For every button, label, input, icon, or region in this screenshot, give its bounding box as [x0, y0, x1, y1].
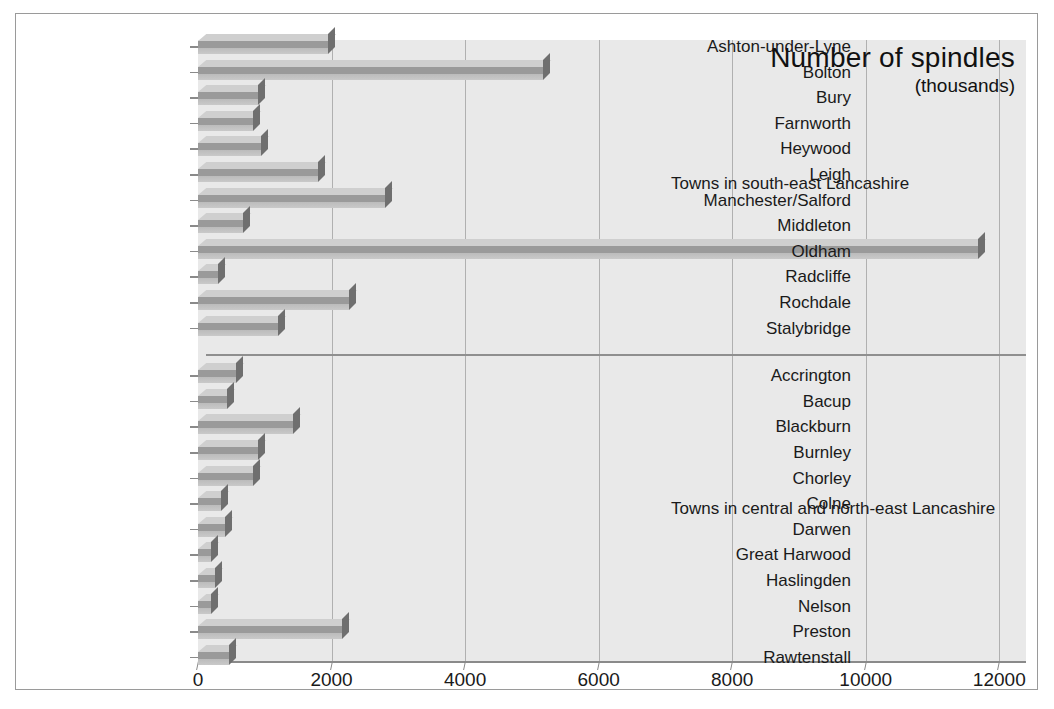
x-tick-label: 6000 — [578, 669, 620, 691]
group-divider — [206, 354, 1026, 356]
x-tick-label: 4000 — [444, 669, 486, 691]
category-label: Middleton — [777, 216, 851, 236]
category-label: Rochdale — [779, 293, 851, 313]
bar — [198, 246, 978, 259]
y-tick — [190, 529, 198, 531]
category-label: Darwen — [792, 520, 851, 540]
bar — [198, 195, 385, 208]
bar — [198, 169, 318, 182]
bar — [198, 323, 278, 336]
y-tick — [190, 225, 198, 227]
bar-top-face — [198, 85, 266, 92]
category-label: Burnley — [793, 443, 851, 463]
bar — [198, 370, 236, 383]
category-label: Bacup — [803, 392, 851, 412]
annotation-south-east: Towns in south-east Lancashire — [671, 174, 909, 194]
category-label: Preston — [792, 622, 851, 642]
bar — [198, 92, 258, 105]
category-label: Radcliffe — [785, 267, 851, 287]
bar — [198, 601, 211, 614]
y-tick — [190, 97, 198, 99]
bar-top-face — [198, 239, 986, 246]
bar — [198, 626, 342, 639]
bar — [198, 549, 211, 562]
y-tick — [190, 554, 198, 556]
bar-top-face — [198, 136, 270, 143]
bar — [198, 421, 293, 434]
x-tick-label: 12000 — [973, 669, 1026, 691]
bar — [198, 575, 215, 588]
bar — [198, 652, 229, 665]
y-tick — [190, 580, 198, 582]
chart-subtitle: (thousands) — [770, 75, 1015, 97]
y-tick — [190, 401, 198, 403]
y-tick — [190, 631, 198, 633]
category-label: Farnworth — [774, 114, 851, 134]
x-axis-line — [198, 661, 1026, 663]
y-tick — [190, 302, 198, 304]
category-label: Oldham — [791, 242, 851, 262]
y-tick — [190, 328, 198, 330]
bar — [198, 473, 253, 486]
chart-frame: 020004000600080001000012000 Ashton-under… — [15, 13, 1038, 690]
chart-title-block: Number of spindles (thousands) — [770, 42, 1015, 97]
y-tick — [190, 174, 198, 176]
bar-top-face — [198, 290, 357, 297]
bar — [198, 524, 225, 537]
y-tick — [190, 123, 198, 125]
y-tick — [190, 478, 198, 480]
bar — [198, 297, 349, 310]
y-tick — [190, 72, 198, 74]
bar — [198, 41, 328, 54]
y-tick — [190, 276, 198, 278]
y-tick — [190, 503, 198, 505]
category-label: Haslingden — [766, 571, 851, 591]
bar — [198, 498, 221, 511]
gridline — [732, 40, 733, 661]
gridline — [332, 40, 333, 661]
y-tick — [190, 200, 198, 202]
y-tick — [190, 46, 198, 48]
bar-top-face — [198, 34, 337, 41]
bar-top-face — [198, 162, 327, 169]
y-tick — [190, 251, 198, 253]
category-label: Chorley — [792, 469, 851, 489]
category-label: Accrington — [771, 366, 851, 386]
y-tick — [190, 452, 198, 454]
bar — [198, 396, 227, 409]
gridline — [465, 40, 466, 661]
bar — [198, 447, 258, 460]
category-label: Blackburn — [775, 417, 851, 437]
x-tick-label: 10000 — [839, 669, 892, 691]
gridline — [866, 40, 867, 661]
category-label: Stalybridge — [766, 319, 851, 339]
category-label: Nelson — [798, 597, 851, 617]
x-tick-label: 8000 — [711, 669, 753, 691]
bar — [198, 67, 543, 80]
bar — [198, 220, 243, 233]
y-tick — [190, 606, 198, 608]
chart-title: Number of spindles — [770, 42, 1015, 74]
bar-top-face — [198, 414, 301, 421]
bar-top-face — [198, 60, 551, 67]
gridline — [599, 40, 600, 661]
bar-top-face — [198, 316, 286, 323]
category-label: Heywood — [780, 139, 851, 159]
x-tick-label: 2000 — [310, 669, 352, 691]
bar-top-face — [198, 619, 350, 626]
bar — [198, 118, 253, 131]
category-label-gutter — [16, 14, 198, 689]
category-label: Great Harwood — [736, 545, 851, 565]
bar — [198, 271, 218, 284]
y-tick — [190, 657, 198, 659]
y-tick — [190, 375, 198, 377]
plot-background — [198, 40, 1026, 661]
category-label: Rawtenstall — [763, 648, 851, 668]
bar-top-face — [198, 188, 393, 195]
x-tick-label: 0 — [193, 669, 204, 691]
bar-top-face — [198, 440, 266, 447]
gridline — [999, 40, 1000, 661]
annotation-central-north-east: Towns in central and north-east Lancashi… — [671, 499, 995, 519]
bar — [198, 143, 261, 156]
y-tick — [190, 148, 198, 150]
